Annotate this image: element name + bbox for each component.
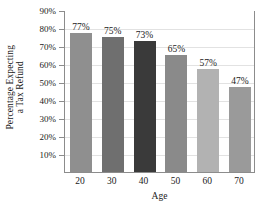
bar [229, 87, 251, 172]
x-axis-tick-label: 20 [64, 176, 96, 186]
bar-chart: Percentage Expecting a Tax Refund 90%80%… [0, 0, 262, 207]
bar [102, 37, 124, 172]
y-axis-tick-mark [59, 155, 64, 156]
y-axis-tick-label: 60% [40, 61, 57, 70]
bar [134, 41, 156, 172]
y-axis-title-line-2: a Tax Refund [15, 45, 25, 130]
plot-area: 77%75%73%65%57%47% [64, 11, 255, 173]
y-axis-tick-mark [59, 83, 64, 84]
y-axis-tick-mark [59, 47, 64, 48]
bar-value-label: 73% [129, 30, 161, 40]
bar-series: 77%75%73%65%57%47% [65, 11, 254, 172]
x-axis-tick-label: 40 [128, 176, 160, 186]
x-axis-tick-label: 70 [223, 176, 255, 186]
x-axis-tick-label: 30 [96, 176, 128, 186]
y-axis-tick-label: 10% [40, 151, 57, 160]
y-axis-tick-mark [59, 29, 64, 30]
y-axis-tick-label: 20% [40, 133, 57, 142]
y-axis-tick-mark [59, 101, 64, 102]
x-axis-title: Age [64, 191, 255, 201]
y-axis-tick-label: 40% [40, 97, 57, 106]
y-axis-title-line-1: Percentage Expecting [5, 45, 15, 130]
y-axis-tick-label: 90% [40, 7, 57, 16]
y-axis-tick-label: 70% [40, 43, 57, 52]
bar-value-label: 65% [160, 44, 192, 54]
bar-value-label: 77% [65, 22, 97, 32]
y-axis-tick-mark [59, 65, 64, 66]
bar [70, 33, 92, 172]
y-axis-tick-labels: 90%80%70%60%50%40%30%20%10% [26, 0, 59, 180]
y-axis-tick-mark [59, 137, 64, 138]
x-axis-tick-label: 60 [191, 176, 223, 186]
y-axis-tick-label: 30% [40, 115, 57, 124]
x-axis-tick-label: 50 [159, 176, 191, 186]
bar-value-label: 75% [97, 26, 129, 36]
y-axis-tick-mark [59, 119, 64, 120]
y-axis-title-text: Percentage Expecting a Tax Refund [5, 45, 26, 130]
bar [197, 69, 219, 172]
y-axis-tick-mark [59, 11, 64, 12]
y-axis-tick-label: 50% [40, 79, 57, 88]
bar-value-label: 57% [192, 58, 224, 68]
bar [165, 55, 187, 172]
bar-value-label: 47% [224, 76, 256, 86]
y-axis-tick-label: 80% [40, 25, 57, 34]
